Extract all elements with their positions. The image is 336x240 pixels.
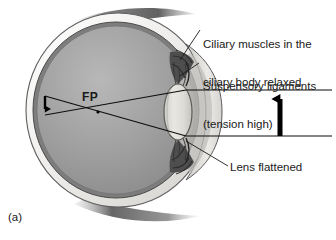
label-suspensory-line2: (tension high) <box>203 118 316 131</box>
focal-point-marker <box>96 110 99 113</box>
label-suspensory-ligaments: Suspensory ligaments (tension high) <box>203 55 316 155</box>
label-focal-point: FP <box>82 91 98 104</box>
lens-flattened <box>164 84 192 140</box>
panel-letter: (a) <box>8 211 22 224</box>
label-suspensory-line1: Suspensory ligaments <box>203 80 316 93</box>
figure-container: Ciliary muscles in the ciliary body rela… <box>0 0 336 240</box>
label-ciliary-line1: Ciliary muscles in the <box>203 38 312 51</box>
label-lens-flattened: Lens flattened <box>230 161 302 174</box>
